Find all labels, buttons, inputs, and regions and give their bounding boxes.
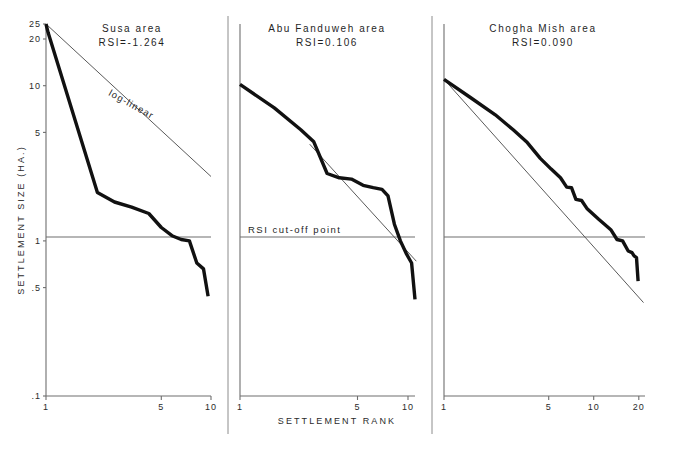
panel-susa-x-tick-label: 1 [43, 402, 49, 412]
panel-abu-fanduweh-rsi: RSI=0.106 [296, 37, 358, 48]
y-tick-label: .5 [31, 283, 41, 293]
rank-size-figure: SETTLEMENT SIZE (HA.) SETTLEMENT RANK 25… [0, 0, 675, 449]
panel-chogha-mish-x-tick-label: 1 [441, 402, 447, 412]
y-tick-label: 20 [29, 34, 41, 44]
panel-chogha-mish-x-tick-label: 5 [546, 402, 552, 412]
panel-susa-x-tick-label: 5 [158, 402, 164, 412]
panel-susa-rsi: RSI=-1.264 [99, 37, 166, 48]
y-tick-label: 1 [35, 236, 41, 246]
y-axis-title: SETTLEMENT SIZE (HA.) [16, 145, 26, 294]
panel-chogha-mish-title: Chogha Mish area [489, 23, 596, 34]
panel-abu-fanduweh-title: Abu Fanduweh area [268, 23, 385, 34]
panel-susa-x-tick-label: 10 [205, 402, 217, 412]
panel-chogha-mish-x-tick-label: 20 [633, 402, 645, 412]
panel-abu-fanduweh-x-tick-label: 10 [402, 402, 414, 412]
y-tick-label: 10 [29, 81, 41, 91]
panel-abu-fanduweh-x-tick-label: 5 [354, 402, 360, 412]
panel-abu-fanduweh-x-tick-label: 1 [237, 402, 243, 412]
y-tick-label: .1 [31, 391, 41, 401]
y-tick-label: 5 [35, 128, 41, 138]
panel-chogha-mish-rsi: RSI=0.090 [512, 37, 574, 48]
panel-susa-title: Susa area [102, 23, 162, 34]
x-axis-title: SETTLEMENT RANK [278, 416, 396, 426]
panel-chogha-mish-x-tick-label: 10 [588, 402, 600, 412]
rsi-cutoff-point-label: RSI cut-off point [248, 224, 341, 235]
y-tick-label: 25 [29, 19, 41, 29]
